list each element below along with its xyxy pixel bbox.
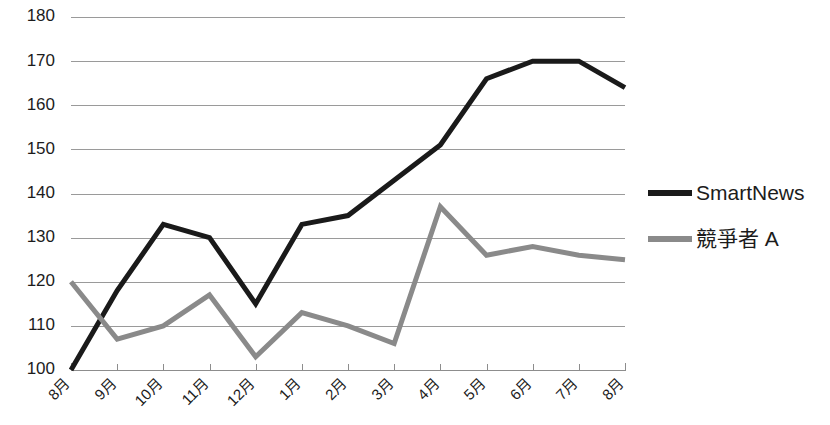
y-tick-label: 150 [27,139,55,158]
chart-background [0,0,830,425]
y-tick-label: 110 [28,315,55,334]
y-tick-label: 160 [27,95,55,114]
line-chart: 100110120130140150160170180 8月9月10月11月12… [0,0,830,425]
y-tick-label: 170 [27,51,55,70]
chart-canvas: 100110120130140150160170180 8月9月10月11月12… [0,0,830,425]
y-tick-label: 120 [27,271,55,290]
y-tick-label: 180 [27,6,55,25]
y-axis-tick-labels: 100110120130140150160170180 [27,6,55,378]
legend-label-2: 競爭者 A [696,227,779,250]
y-tick-label: 100 [27,359,55,378]
y-tick-label: 140 [27,183,55,202]
y-tick-label: 130 [27,227,55,246]
legend-label-1: SmartNews [696,181,805,204]
